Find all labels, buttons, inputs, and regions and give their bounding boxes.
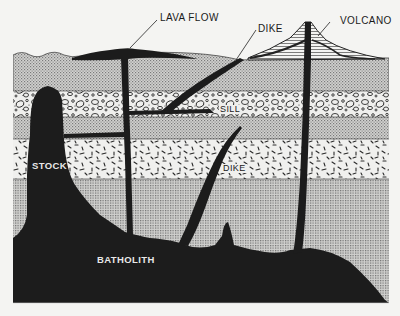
label-stock: STOCK — [32, 161, 67, 171]
label-batholith: BATHOLITH — [97, 255, 155, 265]
label-lava-flow: LAVA FLOW — [160, 13, 219, 23]
label-dike-lower: DIKE — [222, 164, 247, 173]
label-sill: SILL — [219, 105, 241, 114]
label-volcano: VOLCANO — [340, 16, 392, 26]
label-dike-upper: DIKE — [258, 24, 283, 34]
geologic-cross-section — [0, 0, 400, 316]
